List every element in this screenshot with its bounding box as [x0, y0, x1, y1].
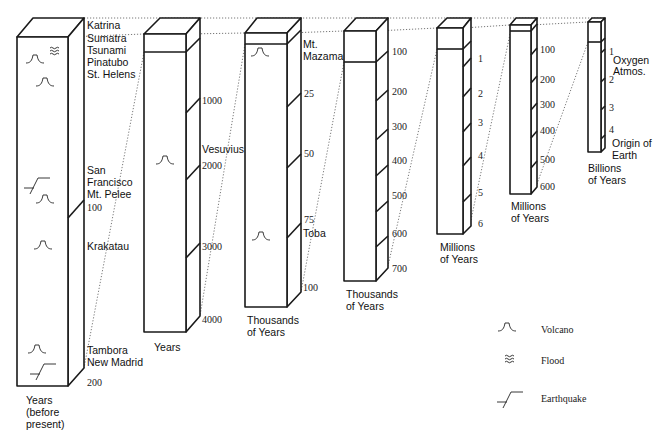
column-thousands-of-years-1	[245, 18, 301, 307]
scale-label: present)	[26, 418, 65, 430]
tick-label: 400	[392, 155, 407, 166]
scale-label: Billions	[588, 162, 621, 174]
event-label: Francisco	[87, 176, 133, 188]
event-label: Pinatubo	[87, 56, 129, 68]
scale-label: of Years	[440, 253, 478, 265]
tick-label: 2000	[202, 160, 222, 171]
scale-label: of Years	[588, 174, 626, 186]
scale-label: Millions	[511, 200, 546, 212]
tick-label: 100	[392, 46, 407, 57]
event-label: Krakatau	[87, 240, 129, 252]
tick-label: 4	[478, 150, 483, 161]
earthquake-icon	[497, 392, 523, 408]
event-label: New Madrid	[87, 356, 143, 368]
event-label: Tsunami	[87, 44, 126, 56]
tick-label: 4	[609, 124, 614, 135]
tick-label: 50	[304, 148, 314, 159]
tick-label: 200	[540, 74, 555, 85]
column-millions-of-years-2	[510, 18, 537, 194]
tick-label: 700	[392, 263, 407, 274]
tick-label: 600	[540, 181, 555, 192]
tick-label: 200	[392, 86, 407, 97]
event-label: Tambora	[87, 344, 128, 356]
legend: Volcano Flood Earthquake	[497, 323, 587, 408]
event-label: Vesuvius	[202, 143, 244, 155]
tick-label: 500	[392, 190, 407, 201]
tick-label: 300	[392, 121, 407, 132]
event-label: San	[87, 164, 106, 176]
time-scale-diagram: Katrina Sumatra Tsunami Pinatubo St. Hel…	[0, 0, 669, 442]
tick-label: 600	[392, 228, 407, 239]
tick-label: 500	[540, 154, 555, 165]
tick-label: 25	[304, 88, 314, 99]
tick-label: 1000	[202, 95, 222, 106]
tick-label: 3000	[202, 241, 222, 252]
legend-label-flood: Flood	[541, 355, 564, 366]
event-label: Atmos.	[613, 65, 646, 77]
tick-label: 300	[540, 99, 555, 110]
tick-label: 200	[87, 377, 102, 388]
tick-label: 3	[609, 102, 614, 113]
scale-label: of Years	[247, 326, 285, 338]
event-label: Mt. Pelee	[87, 188, 132, 200]
tick-label: 100	[303, 282, 318, 293]
tick-label: 4000	[202, 314, 222, 325]
tick-label: 400	[540, 125, 555, 136]
event-label: Earth	[612, 149, 637, 161]
tick-label: 6	[478, 218, 483, 229]
column-years-before-present	[17, 18, 84, 386]
column-thousands-of-years-2	[344, 18, 388, 281]
tick-label: 75	[304, 214, 314, 225]
flood-icon	[505, 355, 514, 363]
scale-label: Thousands	[247, 314, 299, 326]
event-label: St. Helens	[87, 68, 135, 80]
tick-label: 100	[87, 202, 102, 213]
scale-label: Millions	[440, 241, 475, 253]
scale-label: Years	[26, 394, 52, 406]
event-label: Origin of	[612, 137, 652, 149]
event-label: Mt.	[303, 38, 318, 50]
scale-label: of Years	[346, 300, 384, 312]
scale-label: Years	[154, 341, 180, 353]
scale-label: of Years	[511, 212, 549, 224]
tick-label: 2	[609, 74, 614, 85]
legend-label-earthquake: Earthquake	[541, 393, 587, 404]
tick-label: 1	[478, 53, 483, 64]
tick-label: 2	[478, 88, 483, 99]
tick-label: 3	[478, 117, 483, 128]
column-billions-of-years	[588, 18, 605, 152]
event-label: Mazama	[303, 50, 343, 62]
volcano-icon	[498, 323, 516, 331]
tick-label: 100	[540, 44, 555, 55]
legend-label-volcano: Volcano	[541, 324, 574, 335]
column-years	[144, 18, 200, 332]
column-millions-of-years-1	[437, 18, 471, 234]
scale-label: (before	[26, 406, 59, 418]
event-label: Sumatra	[87, 32, 127, 44]
event-label: Katrina	[87, 19, 120, 31]
tick-label: 5	[478, 187, 483, 198]
event-label: Toba	[303, 227, 326, 239]
scale-label: Thousands	[346, 288, 398, 300]
